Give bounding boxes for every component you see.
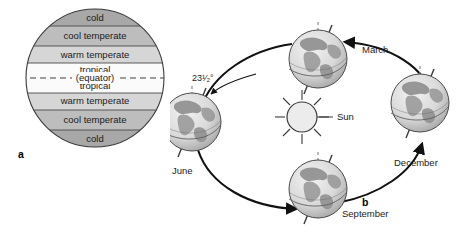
orbit-arc-march-to-june [201, 44, 292, 108]
zone-label-cool-temperate-north: cool temperate [64, 30, 127, 41]
season-label-june: June [172, 165, 193, 176]
sun-group: Sun [275, 90, 354, 144]
globe-september: September [289, 152, 388, 224]
zone-label-cold-south: cold [86, 133, 103, 144]
season-label-march: March [362, 44, 388, 55]
figure-root: cold cool temperate warm temperate tropi… [0, 0, 465, 234]
tilt-leader-arrow [211, 74, 256, 94]
panel-b-letter: b [362, 196, 368, 208]
sun-label: Sun [337, 111, 354, 122]
earth-orbit-svg: Sun March 23¹⁄₂° June [170, 0, 465, 234]
tilt-angle-label: 23¹⁄₂° [192, 73, 214, 83]
zone-label-warm-temperate-north: warm temperate [60, 49, 130, 60]
panel-b-earth-orbit: Sun March 23¹⁄₂° June [170, 0, 465, 234]
zone-label-cool-temperate-south: cool temperate [64, 114, 127, 125]
season-label-december: December [394, 157, 438, 168]
orbit-arc-september-to-december [337, 144, 422, 203]
equator-label: (equator) [76, 72, 115, 83]
sun-disc-icon [287, 102, 317, 132]
zone-label-warm-temperate-south: warm temperate [60, 95, 130, 106]
panel-a-letter: a [18, 148, 24, 160]
orbit-arc-june-to-september [198, 150, 296, 209]
globe-december: December [391, 66, 449, 168]
zone-label-cold-north: cold [86, 12, 103, 23]
panel-a-climate-zones: cold cool temperate warm temperate tropi… [0, 0, 180, 180]
season-label-september: September [342, 208, 388, 219]
climate-zones-svg: cold cool temperate warm temperate tropi… [0, 0, 180, 180]
globe-june: 23¹⁄₂° June [170, 73, 256, 175]
globe-march: March [289, 22, 388, 94]
